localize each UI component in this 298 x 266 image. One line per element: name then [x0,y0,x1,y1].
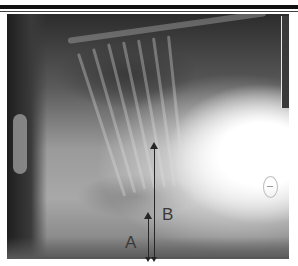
scale-bar [281,16,289,108]
side-marker-dash [267,186,273,187]
arrow-a-shaft [148,218,150,258]
top-border-rule-thin [0,11,298,12]
top-border-rule [0,5,298,9]
side-marker-icon [263,176,278,198]
arrow-b-tail-icon [151,257,157,262]
forelimb-shadow [13,114,27,174]
arrow-a-label: A [125,234,136,251]
arrow-b-label: B [162,206,173,223]
arrow-a-tail-icon [145,257,151,262]
arrow-b-shaft [154,148,156,258]
